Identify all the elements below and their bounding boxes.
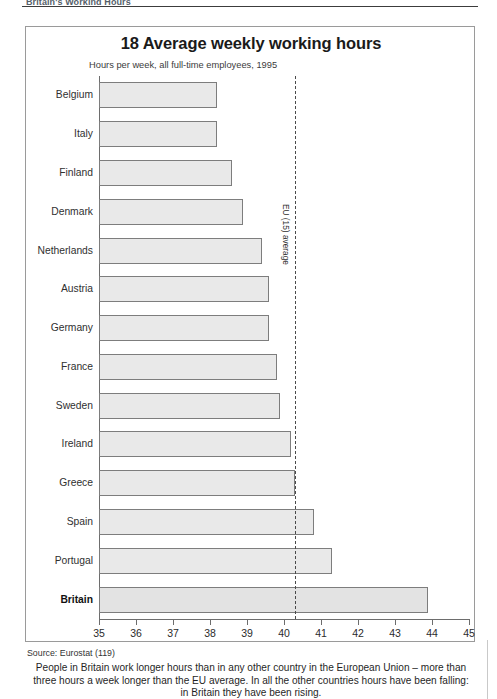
category-label: Greece — [59, 477, 93, 488]
category-label: Austria — [61, 283, 93, 294]
bar-row: France — [99, 348, 469, 387]
x-tick-label: 38 — [190, 627, 230, 639]
bar — [99, 509, 314, 535]
bar — [99, 587, 428, 613]
figure-container: 18 Average weekly working hours Hours pe… — [25, 26, 475, 642]
x-tick-label: 41 — [301, 627, 341, 639]
category-label: Netherlands — [37, 245, 93, 256]
bar — [99, 160, 232, 186]
average-line — [295, 76, 296, 619]
category-label: Portugal — [55, 555, 93, 566]
plot-area: 3536373839404142434445 BelgiumItalyFinla… — [99, 76, 469, 619]
average-line-label: EU (15) average — [281, 204, 291, 265]
bar — [99, 121, 217, 147]
x-tick — [395, 619, 396, 625]
x-tick — [469, 619, 470, 625]
category-label: France — [61, 361, 93, 372]
bar — [99, 470, 295, 496]
bar — [99, 315, 269, 341]
x-tick-label: 40 — [264, 627, 304, 639]
bar-row: Spain — [99, 503, 469, 542]
category-label: Britain — [60, 594, 93, 605]
source-note: Source: Eurostat (119) — [27, 648, 115, 658]
bar — [99, 238, 262, 264]
x-tick — [432, 619, 433, 625]
page-root: Britain's Working Hours 18 Average weekl… — [0, 0, 497, 699]
bar-row: Italy — [99, 115, 469, 154]
category-label: Sweden — [56, 400, 93, 411]
x-tick — [136, 619, 137, 625]
running-head: Britain's Working Hours — [26, 0, 131, 5]
x-tick-label: 42 — [338, 627, 378, 639]
category-label: Germany — [51, 322, 93, 333]
x-tick — [99, 619, 100, 625]
margin-rule — [487, 640, 488, 699]
bar-row: Belgium — [99, 76, 469, 115]
x-tick — [358, 619, 359, 625]
bar-row: Finland — [99, 154, 469, 193]
category-label: Denmark — [51, 206, 93, 217]
x-tick-label: 39 — [227, 627, 267, 639]
bar-row: Britain — [99, 580, 469, 619]
x-tick-label: 37 — [153, 627, 193, 639]
bar — [99, 276, 269, 302]
category-label: Spain — [67, 516, 93, 527]
category-label: Ireland — [62, 438, 93, 449]
bar-row: Greece — [99, 464, 469, 503]
x-tick-label: 36 — [116, 627, 156, 639]
running-head-rule — [22, 6, 478, 7]
x-tick — [210, 619, 211, 625]
x-tick — [247, 619, 248, 625]
figure-subtitle: Hours per week, all full-time employees,… — [89, 60, 277, 70]
category-label: Italy — [74, 128, 93, 139]
x-tick-label: 44 — [412, 627, 452, 639]
x-tick-label: 35 — [79, 627, 119, 639]
x-tick-label: 43 — [375, 627, 415, 639]
bar-row: Sweden — [99, 386, 469, 425]
x-tick — [284, 619, 285, 625]
category-label: Finland — [59, 167, 93, 178]
bar — [99, 199, 243, 225]
category-label: Belgium — [56, 89, 93, 100]
bar — [99, 354, 277, 380]
x-tick — [173, 619, 174, 625]
bar-row: Ireland — [99, 425, 469, 464]
bar-row: Germany — [99, 309, 469, 348]
bar — [99, 82, 217, 108]
figure-title: 18 Average weekly working hours — [26, 34, 476, 53]
bar — [99, 431, 291, 457]
x-tick-label: 45 — [449, 627, 489, 639]
figure-caption: People in Britain work longer hours than… — [28, 662, 474, 699]
x-tick — [321, 619, 322, 625]
bar — [99, 393, 280, 419]
bar-row: Austria — [99, 270, 469, 309]
bar — [99, 548, 332, 574]
bar-row: Portugal — [99, 541, 469, 580]
